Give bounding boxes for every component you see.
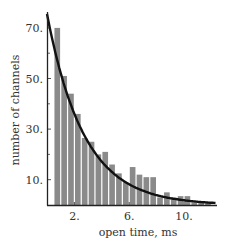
x-tick-label: 2. — [69, 210, 80, 223]
y-axis-label: number of channels — [9, 54, 22, 165]
histogram-bar — [82, 138, 88, 205]
histogram-bars — [54, 28, 210, 205]
y-tick-label: 10. — [26, 174, 44, 187]
x-axis-label: open time, ms — [99, 226, 178, 239]
histogram-bar — [96, 154, 102, 205]
histogram-bar — [150, 177, 156, 205]
y-tick-label: 70. — [26, 22, 44, 35]
histogram-bar — [61, 76, 67, 205]
histogram-bar — [157, 197, 163, 205]
y-tick-label: 30. — [26, 123, 44, 136]
histogram-chart: 10.30.50.70. 2.6.10. open time, ms numbe… — [0, 0, 230, 248]
y-tick-label: 50. — [26, 73, 44, 86]
histogram-bar — [102, 152, 108, 205]
histogram-bar — [191, 202, 197, 205]
x-tick-label: 10. — [175, 210, 193, 223]
histogram-bar — [123, 182, 129, 205]
x-tick-label: 6. — [124, 210, 135, 223]
